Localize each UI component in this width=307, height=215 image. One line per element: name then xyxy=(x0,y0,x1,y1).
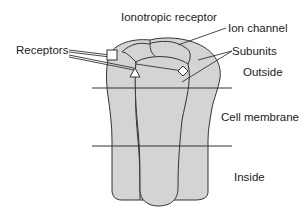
label-inside: Inside xyxy=(234,172,265,184)
label-ion-channel: Ion channel xyxy=(228,23,287,35)
label-cell-membrane: Cell membrane xyxy=(221,112,299,124)
diagram-title: Ionotropic receptor xyxy=(121,12,217,24)
label-subunits: Subunits xyxy=(232,46,277,58)
label-receptors: Receptors xyxy=(16,45,68,57)
label-outside: Outside xyxy=(243,67,283,79)
receptor-square-icon xyxy=(107,50,117,60)
